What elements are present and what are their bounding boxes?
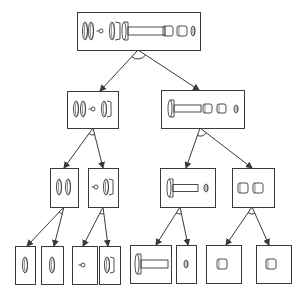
node-box-right-c (161, 169, 216, 208)
edges-layer (27, 50, 269, 246)
and-arc-left-b (100, 213, 104, 214)
node-box-left-b (89, 169, 119, 208)
node-frame (207, 246, 242, 284)
node-box-leaf-2 (42, 247, 64, 285)
edge-arrow-right-c-to-leaf-6 (180, 207, 188, 245)
edge-arrow-left-a-to-leaf-1 (27, 207, 64, 246)
node-box-right-d (233, 169, 275, 208)
node-frame (161, 169, 216, 208)
node-box-leaf-8 (257, 246, 292, 284)
node-frame (233, 169, 275, 208)
node-box-leaf-7 (207, 246, 242, 284)
edge-arrow-left-to-left-b (93, 128, 103, 168)
and-arc-root (132, 55, 146, 59)
node-box-leaf-6 (177, 246, 197, 284)
node-frame (78, 13, 201, 51)
node-frame (257, 246, 292, 284)
node-box-leaf-3 (73, 247, 98, 285)
node-box-left-a (51, 169, 79, 208)
edge-arrow-root-to-left (100, 50, 138, 91)
node-frame (131, 246, 172, 284)
edge-arrow-right-to-right-d (200, 128, 252, 168)
node-box-leaf-4 (100, 247, 121, 285)
tree-canvas (0, 0, 304, 293)
assembly-tree-diagram (0, 0, 304, 293)
edge-arrow-root-to-right (138, 50, 199, 90)
edge-arrow-right-d-to-leaf-8 (252, 207, 269, 245)
and-arc-left-a (59, 212, 62, 214)
node-box-left (68, 92, 119, 129)
edge-arrow-right-to-right-c (186, 128, 200, 168)
node-frame (51, 169, 79, 208)
edge-arrow-right-c-to-leaf-5 (156, 207, 180, 245)
and-arc-right-c (176, 213, 181, 214)
edge-arrow-left-b-to-leaf-4 (103, 207, 108, 246)
node-frame (177, 246, 197, 284)
node-frame (16, 247, 36, 285)
node-box-leaf-5 (131, 246, 172, 284)
node-frame (100, 247, 121, 285)
edge-arrow-left-b-to-leaf-3 (83, 207, 103, 246)
and-arc-right-d (248, 213, 255, 214)
and-arc-left (89, 134, 95, 135)
node-box-root (78, 13, 201, 51)
and-arc-right (197, 133, 206, 136)
node-box-leaf-1 (16, 247, 36, 285)
node-frame (42, 247, 64, 285)
nodes-layer (16, 13, 292, 285)
node-box-right (162, 91, 245, 129)
